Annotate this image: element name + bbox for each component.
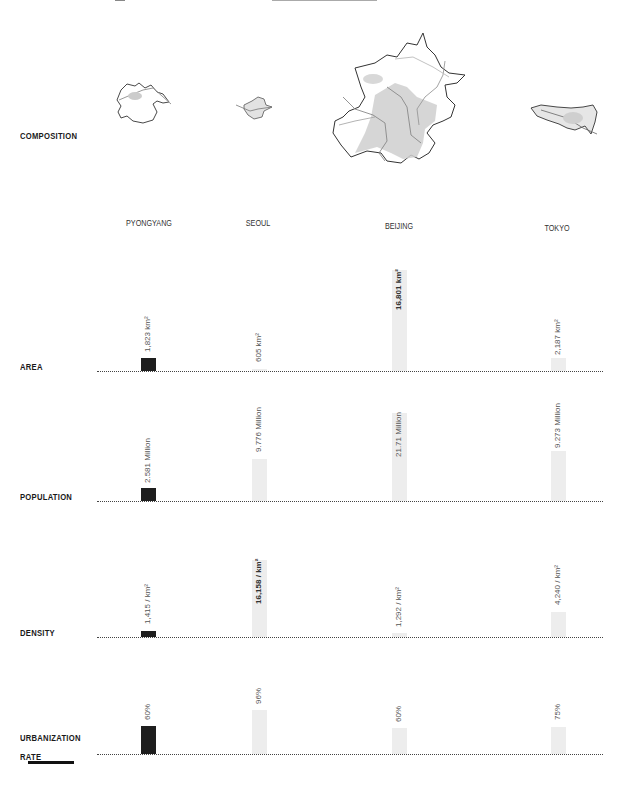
header-title-fragment (272, 0, 377, 1)
urbanization-value-pyongyang: 60% (143, 704, 152, 720)
density-value-beijing: 1,292 / km² (394, 587, 403, 627)
density-value-pyongyang: 1,415 / km² (143, 584, 152, 624)
density-bar-tokyo (551, 612, 566, 637)
population-bar-tokyo (551, 451, 566, 501)
area-baseline (97, 371, 603, 372)
area-value-pyongyang: 1,823 km² (143, 316, 152, 352)
population-baseline (97, 501, 603, 502)
population-bar-seoul (252, 459, 267, 501)
density-bar-pyongyang (141, 631, 156, 637)
row-label-urbanization-line1: URBANIZATION (20, 733, 81, 743)
urbanization-value-beijing: 60% (394, 706, 403, 722)
population-value-beijing: 21.71 Million (394, 412, 403, 457)
population-value-pyongyang: 2.581 Million (143, 438, 152, 483)
population-value-tokyo: 9.273 Million (553, 403, 562, 448)
density-bar-beijing (392, 633, 407, 637)
header-fragment (115, 0, 125, 1)
urbanization-baseline (97, 754, 603, 755)
area-value-seoul: 605 km² (254, 333, 263, 362)
density-baseline (97, 637, 603, 638)
area-bar-tokyo (551, 358, 566, 371)
city-label-seoul: SEOUL (226, 218, 290, 228)
urbanization-bar-tokyo (551, 727, 566, 754)
urbanization-bar-seoul (252, 710, 267, 754)
urbanization-value-seoul: 96% (254, 688, 263, 704)
row-label-area: AREA (20, 362, 43, 372)
density-value-seoul: 16,158 / km² (254, 559, 263, 604)
row-label-composition: COMPOSITION (20, 131, 77, 141)
city-label-pyongyang: PYONGYANG (117, 218, 181, 228)
city-label-beijing: BEIJING (367, 221, 431, 231)
urbanization-bar-beijing (392, 728, 407, 754)
urbanization-value-tokyo: 75% (553, 704, 562, 720)
footer-rule (28, 761, 74, 764)
map-tokyo (527, 100, 602, 145)
area-bar-seoul (252, 369, 267, 371)
area-value-beijing: 16,801 km² (394, 269, 403, 310)
row-label-density: DENSITY (20, 628, 55, 638)
density-value-tokyo: 4,240 / km² (553, 565, 562, 605)
area-bar-pyongyang (141, 358, 156, 371)
city-label-tokyo: TOKYO (525, 223, 589, 233)
map-beijing (325, 25, 485, 185)
map-pyongyang (113, 80, 178, 130)
population-bar-pyongyang (141, 488, 156, 501)
population-value-seoul: 9.776 Million (254, 407, 263, 452)
area-value-tokyo: 2,187 km² (553, 319, 562, 355)
map-seoul (234, 95, 274, 125)
row-label-population: POPULATION (20, 492, 72, 502)
urbanization-bar-pyongyang (141, 726, 156, 754)
